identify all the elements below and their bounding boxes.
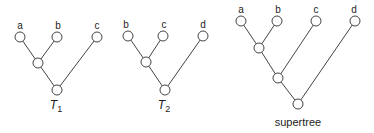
trees-canvas: a b c T1 b c d T2 a b c d <box>0 0 374 133</box>
leaf-label-a: a <box>238 4 244 15</box>
edge <box>165 36 203 90</box>
tree-label-t2: T2 <box>158 98 170 114</box>
tree-label-supertree: supertree <box>275 116 321 128</box>
leaf-label-b: b <box>275 4 281 15</box>
internal-node <box>141 57 151 67</box>
internal-node <box>254 43 264 53</box>
tree-t1: a b c T1 <box>15 20 102 114</box>
tree-supertree: a b c d supertree <box>236 4 360 128</box>
edge <box>278 21 316 78</box>
leaf-label-d: d <box>351 4 357 15</box>
leaf-node-b <box>123 31 133 41</box>
leaf-node-c <box>311 16 321 26</box>
internal-node <box>273 73 283 83</box>
internal-node <box>33 58 43 68</box>
leaf-label-c: c <box>95 20 100 31</box>
leaf-node-b <box>272 16 282 26</box>
leaf-node-a <box>236 16 246 26</box>
leaf-label-c: c <box>162 19 167 30</box>
leaf-node-c <box>92 32 102 42</box>
leaf-node-c <box>158 31 168 41</box>
leaf-node-d <box>198 31 208 41</box>
root-node <box>160 85 170 95</box>
root-node <box>52 85 62 95</box>
leaf-node-d <box>350 16 360 26</box>
root-node <box>293 99 303 109</box>
leaf-label-a: a <box>17 20 23 31</box>
leaf-node-b <box>52 32 62 42</box>
leaf-node-a <box>15 32 25 42</box>
leaf-label-d: d <box>200 19 206 30</box>
leaf-label-c: c <box>314 4 319 15</box>
tree-t2: b c d T2 <box>123 19 208 114</box>
leaf-label-b: b <box>123 19 129 30</box>
edge <box>298 21 355 104</box>
edge <box>57 37 97 90</box>
leaf-label-b: b <box>55 20 61 31</box>
tree-label-t1: T1 <box>50 98 62 114</box>
